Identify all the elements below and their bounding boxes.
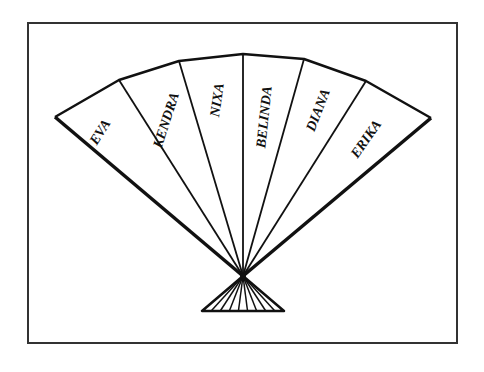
pivot-rivet (240, 273, 246, 279)
fan-diagram: EVAKENDRANIXABELINDADIANAERIKA (0, 0, 484, 372)
fan-handle (202, 273, 284, 311)
fan-panels (55, 54, 431, 276)
